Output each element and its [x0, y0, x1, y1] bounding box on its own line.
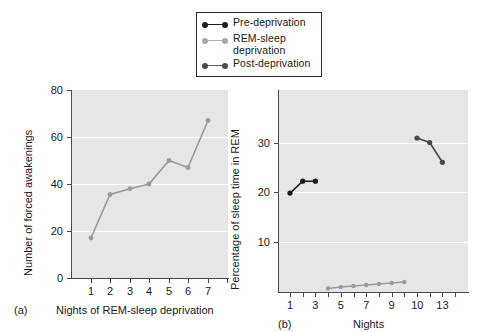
- panel-b-series-post-deprivation: [240, 0, 484, 332]
- panel-a: 0 20 40 60 80 1 2 3 4 5 6 7: [0, 0, 240, 332]
- panel-b-tag: (b): [278, 318, 291, 330]
- panel-a-y-axis-title: Number of forced awakenings: [22, 130, 34, 276]
- panel-a-tag: (a): [14, 304, 27, 316]
- panel-a-x-axis-title: Nights of REM-sleep deprivation: [56, 304, 214, 316]
- panel-b-x-axis-title: Nights: [353, 318, 384, 330]
- panel-b: 10 20 30 1 3 5 7 9 10 13: [240, 0, 484, 332]
- panel-a-series-rem-sleep-deprivation: [0, 0, 240, 332]
- panel-b-y-axis-title: Percentage of sleep time in REM: [229, 129, 241, 290]
- figure-container: Pre-deprivation REM-sleep deprivation Po…: [0, 0, 484, 332]
